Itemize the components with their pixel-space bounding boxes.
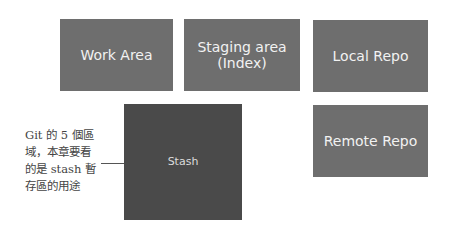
annotation-line: Git 的 5 個區 [25,127,100,144]
annotation-line: 的是 stash 暫 [25,161,100,178]
staging-area-box: Staging area (Index) [184,19,300,91]
annotation-text: Git 的 5 個區 域，本章要看 的是 stash 暫 存區的用途 [25,127,100,195]
annotation-line: 域，本章要看 [25,144,100,161]
remote-repo-box: Remote Repo [313,105,428,177]
stash-label: Stash [168,156,199,169]
remote-repo-label: Remote Repo [324,133,418,149]
staging-area-sublabel: (Index) [197,55,286,71]
local-repo-label: Local Repo [333,48,409,64]
annotation-connector-line [101,163,124,164]
stash-box: Stash [124,104,242,220]
annotation-line: 存區的用途 [25,178,100,195]
staging-area-label: Staging area [197,39,286,55]
work-area-label: Work Area [80,47,152,63]
local-repo-box: Local Repo [313,20,428,92]
work-area-box: Work Area [60,19,173,91]
